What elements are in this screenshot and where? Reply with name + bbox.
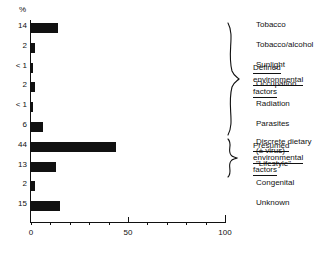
bar-value-label: 2 xyxy=(23,80,27,89)
annotation-line: factors xyxy=(253,86,277,98)
percent-unit-label: % xyxy=(19,5,26,14)
bar-value-label: < 1 xyxy=(16,100,27,109)
bar xyxy=(31,162,56,172)
x-axis-tick xyxy=(31,222,32,225)
bar xyxy=(31,181,35,191)
chart-row: 6Parasites xyxy=(31,119,225,139)
x-axis-tick xyxy=(206,222,207,225)
category-label-text: Unknown xyxy=(256,198,289,208)
x-axis-tick-label: 0 xyxy=(29,228,33,237)
x-axis-tick xyxy=(70,222,71,225)
category-label-text: Radiation xyxy=(256,99,290,109)
category-label-text: Congenital xyxy=(256,178,294,188)
chart-row: 2Occupation xyxy=(31,79,225,99)
bar xyxy=(31,201,60,211)
x-axis-tick xyxy=(109,222,110,225)
annotation-line: environmental xyxy=(253,74,303,86)
chart-row: 2Congenital xyxy=(31,178,225,198)
x-axis-tick-label: 100 xyxy=(218,228,231,237)
category-label: Tobacco/alcohol xyxy=(256,40,313,50)
x-axis-tick xyxy=(89,222,90,225)
x-axis-tick xyxy=(147,222,148,225)
bar-value-label: 14 xyxy=(18,21,27,30)
bar xyxy=(31,102,33,112)
x-axis-tick xyxy=(225,215,226,223)
brace-presumed-environmental-factors xyxy=(222,138,244,178)
bar-value-label: 15 xyxy=(18,199,27,208)
bar xyxy=(31,142,116,152)
category-label: Tobacco xyxy=(256,20,286,30)
bar xyxy=(31,23,58,33)
bar xyxy=(31,43,35,53)
plot-area: 14Tobacco2Tobacco/alcohol< 1Sunlight2Occ… xyxy=(31,20,225,218)
bar xyxy=(31,82,35,92)
bar-value-label: 44 xyxy=(18,140,27,149)
chart-row: 13"Lifestyle" xyxy=(31,159,225,179)
annotation-line: environmental xyxy=(253,152,303,164)
chart-row: 14Tobacco xyxy=(31,20,225,40)
annotation-line: Presumed xyxy=(253,140,289,152)
annotation-presumed-environmental-factors: Presumed environmental factors xyxy=(253,140,303,176)
bar-value-label: 13 xyxy=(18,160,27,169)
bar-value-label: 2 xyxy=(23,41,27,50)
annotation-line: Defined xyxy=(253,62,281,74)
bar-value-label: 2 xyxy=(23,179,27,188)
category-label: Congenital xyxy=(256,178,294,188)
category-label-text: Parasites xyxy=(256,119,289,129)
x-axis-tick xyxy=(50,222,51,225)
bar-chart: % 14Tobacco2Tobacco/alcohol< 1Sunlight2O… xyxy=(0,0,318,257)
brace-defined-environmental-factors xyxy=(222,22,244,136)
x-axis-tick-label: 50 xyxy=(124,228,133,237)
chart-row: 15Unknown xyxy=(31,198,225,218)
bar-value-label: < 1 xyxy=(16,61,27,70)
category-label: Unknown xyxy=(256,198,289,208)
category-label-text: Tobacco xyxy=(256,20,286,30)
bar xyxy=(31,122,43,132)
category-label: Radiation xyxy=(256,99,290,109)
bar xyxy=(31,63,33,73)
chart-row: < 1Radiation xyxy=(31,99,225,119)
x-axis-tick xyxy=(186,222,187,225)
annotation-line: factors xyxy=(253,164,277,176)
x-axis-tick xyxy=(167,222,168,225)
category-label: Parasites xyxy=(256,119,289,129)
bar-value-label: 6 xyxy=(23,120,27,129)
chart-row: 2Tobacco/alcohol xyxy=(31,40,225,60)
chart-row: < 1Sunlight xyxy=(31,60,225,80)
category-label-text: Tobacco/alcohol xyxy=(256,40,313,50)
annotation-defined-environmental-factors: Defined environmental factors xyxy=(253,62,303,98)
x-axis-tick xyxy=(128,217,129,223)
chart-row: 44Discrete dietary(± virus) xyxy=(31,139,225,159)
